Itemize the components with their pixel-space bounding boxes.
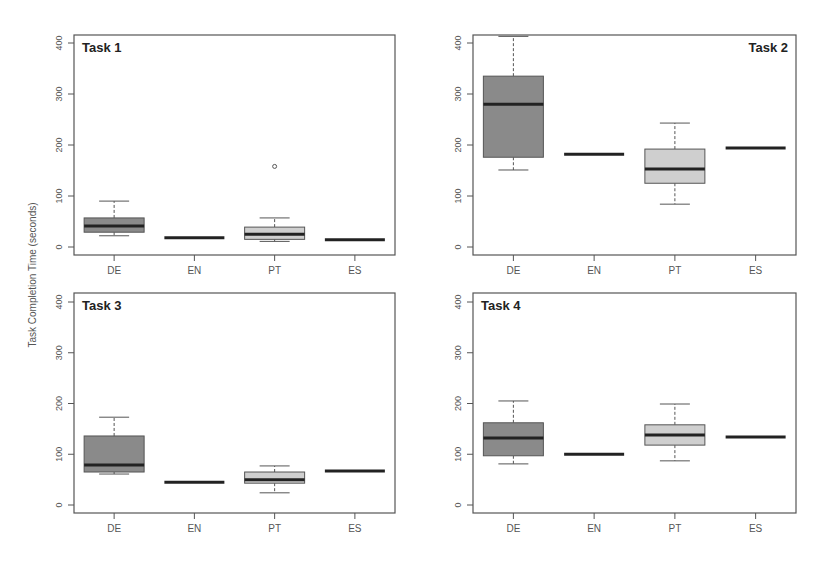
y-tick-label: 400 — [54, 35, 64, 50]
panel-task-1: 0100200300400DEENPTESTask 1 — [54, 35, 395, 276]
outlier-point — [273, 164, 277, 168]
y-tick-label: 0 — [54, 244, 64, 249]
y-tick-label: 100 — [54, 447, 64, 462]
box-pt — [645, 123, 705, 204]
box-pt — [245, 466, 305, 493]
boxplot-figure: Task Completion Time (seconds) 010020030… — [0, 0, 819, 575]
plot-frame — [473, 293, 796, 513]
iqr-box — [84, 436, 144, 472]
y-axis-label: Task Completion Time (seconds) — [27, 202, 38, 347]
y-tick-label: 200 — [453, 396, 463, 411]
x-tick-label-es: ES — [348, 265, 362, 276]
x-tick-label-de: DE — [107, 265, 121, 276]
panel-title: Task 1 — [82, 40, 122, 55]
box-de — [483, 36, 543, 170]
panel-title: Task 3 — [82, 298, 122, 313]
x-tick-label-de: DE — [506, 265, 520, 276]
iqr-box — [483, 76, 543, 157]
y-axis: 0100200300400 — [54, 35, 74, 249]
box-pt — [245, 164, 305, 241]
y-tick-label: 400 — [453, 35, 463, 50]
y-tick-label: 200 — [453, 137, 463, 152]
x-tick-label-en: EN — [587, 523, 601, 534]
iqr-box — [645, 149, 705, 183]
y-tick-label: 400 — [453, 294, 463, 309]
panel-title: Task 4 — [481, 298, 521, 313]
box-de — [84, 417, 144, 474]
iqr-box — [245, 472, 305, 483]
figure-canvas: Task Completion Time (seconds) 010020030… — [0, 0, 819, 575]
box-de — [483, 401, 543, 464]
y-tick-label: 300 — [54, 345, 64, 360]
y-tick-label: 300 — [54, 86, 64, 101]
x-tick-label-pt: PT — [268, 265, 281, 276]
y-tick-label: 0 — [54, 502, 64, 507]
y-tick-label: 200 — [54, 137, 64, 152]
y-tick-label: 100 — [453, 447, 463, 462]
y-tick-label: 300 — [453, 86, 463, 101]
panel-task-4: 0100200300400DEENPTESTask 4 — [453, 293, 796, 534]
y-tick-label: 100 — [54, 188, 64, 203]
y-tick-label: 300 — [453, 345, 463, 360]
x-tick-label-es: ES — [348, 523, 362, 534]
x-tick-label-en: EN — [587, 265, 601, 276]
y-tick-label: 200 — [54, 396, 64, 411]
box-de — [84, 201, 144, 236]
x-axis: DEENPTES — [506, 255, 762, 276]
x-tick-label-de: DE — [506, 523, 520, 534]
y-tick-label: 100 — [453, 188, 463, 203]
panel-task-2: 0100200300400DEENPTESTask 2 — [453, 35, 796, 276]
x-tick-label-de: DE — [107, 523, 121, 534]
x-axis: DEENPTES — [506, 513, 762, 534]
plot-frame — [74, 293, 395, 513]
x-tick-label-pt: PT — [268, 523, 281, 534]
box-pt — [645, 404, 705, 461]
x-axis: DEENPTES — [107, 255, 362, 276]
panel-task-3: 0100200300400DEENPTESTask 3 — [54, 293, 395, 534]
y-axis: 0100200300400 — [453, 294, 473, 507]
x-tick-label-pt: PT — [668, 265, 681, 276]
x-tick-label-es: ES — [749, 523, 763, 534]
x-tick-label-en: EN — [187, 523, 201, 534]
x-axis: DEENPTES — [107, 513, 362, 534]
x-tick-label-en: EN — [187, 265, 201, 276]
y-axis: 0100200300400 — [453, 35, 473, 249]
y-axis: 0100200300400 — [54, 294, 74, 507]
x-tick-label-pt: PT — [668, 523, 681, 534]
panel-title: Task 2 — [748, 40, 788, 55]
y-tick-label: 0 — [453, 244, 463, 249]
y-tick-label: 400 — [54, 294, 64, 309]
x-tick-label-es: ES — [749, 265, 763, 276]
y-tick-label: 0 — [453, 502, 463, 507]
